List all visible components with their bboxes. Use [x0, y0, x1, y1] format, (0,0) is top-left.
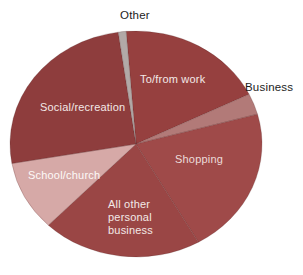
pie-chart-figure: To/from work Business Shopping All other… [0, 0, 303, 275]
pie-chart [0, 0, 303, 275]
pie-slice-social-recreation [10, 32, 136, 163]
